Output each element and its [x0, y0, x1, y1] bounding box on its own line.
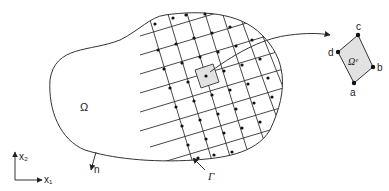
x2-axis-label: x₂ — [19, 151, 28, 162]
element-label: Ωᵉ — [348, 56, 358, 67]
domain-boundary — [50, 13, 283, 161]
boundary-label: Γ — [207, 170, 215, 182]
normal-label: n — [94, 164, 100, 175]
fem-diagram: Ωᵉ d c b a Ω n Γ x₂ x₁ — [0, 0, 389, 191]
element-detail: Ωᵉ d c b a — [328, 21, 383, 98]
coordinate-axes: x₂ x₁ — [15, 151, 53, 185]
node-c-label: c — [356, 21, 361, 32]
node-a-label: a — [350, 87, 356, 98]
x1-axis-label: x₁ — [44, 174, 53, 185]
node-d-label: d — [328, 47, 334, 58]
node-b-label: b — [377, 62, 383, 73]
mesh-nodes — [153, 12, 273, 159]
mesh-grid — [140, 0, 310, 170]
domain-label: Ω — [80, 101, 88, 113]
